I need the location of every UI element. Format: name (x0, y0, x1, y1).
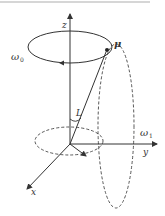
y-axis-label: y (142, 147, 149, 157)
z-axis-label: z (61, 20, 67, 30)
mu-vector (70, 52, 106, 144)
horizontal-dashed-ellipse (35, 127, 103, 155)
omega0-subscript: 0 (20, 56, 24, 63)
angle-label: L (75, 108, 82, 118)
omega1-label: ω (140, 127, 148, 138)
x-axis-label: x (31, 187, 36, 197)
mu-tip-dot (105, 48, 109, 52)
omega1-subscript: 1 (149, 132, 153, 139)
precession-diagram: z y x ω 0 ω 1 μ L (0, 0, 165, 216)
omega0-label: ω (11, 51, 19, 62)
precession-direction-arrow-icon (59, 61, 64, 66)
vertical-dashed-ellipse (98, 44, 134, 208)
mu-label: μ (114, 38, 121, 49)
x-axis (27, 144, 70, 189)
